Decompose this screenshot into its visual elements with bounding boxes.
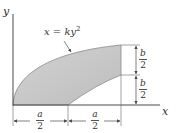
diagram-canvas	[0, 0, 177, 133]
eq-exponent: 2	[76, 25, 80, 33]
denominator: 2	[37, 121, 43, 131]
denominator: 2	[92, 121, 98, 131]
y-axis-label: y	[3, 6, 9, 17]
eq-sign: =	[50, 26, 65, 37]
numerator: b	[140, 49, 146, 59]
denominator: 2	[140, 90, 146, 100]
numerator: a	[37, 110, 42, 120]
x-axis-label: x	[162, 106, 168, 117]
curve-equation-label: x = ky2	[44, 26, 81, 37]
dim-label-a-half-left: a 2	[36, 110, 44, 131]
eq-rhs: ky	[64, 26, 76, 37]
shaded-region	[13, 45, 121, 105]
dim-label-b-half-lower: b 2	[139, 79, 147, 100]
dim-label-a-half-right: a 2	[91, 110, 99, 131]
numerator: a	[92, 110, 97, 120]
denominator: 2	[140, 60, 146, 70]
shaded-area-diagram: y x x = ky2 b 2 b 2 a 2 a 2	[0, 0, 177, 133]
dim-label-b-half-upper: b 2	[139, 49, 147, 70]
curve-leader-arrow	[64, 41, 71, 52]
numerator: b	[140, 79, 146, 89]
